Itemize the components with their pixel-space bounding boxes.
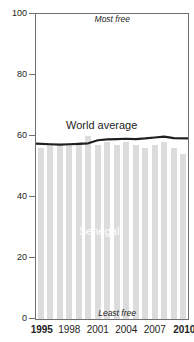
cropped-title-mark (73, 0, 79, 4)
y-axis-tick-label: 20 (17, 253, 27, 262)
x-axis-labels: 199519982001200420072010 (0, 324, 194, 340)
y-axis-tick (29, 135, 35, 136)
y-axis-tick (29, 74, 35, 75)
y-axis-tick-label: 80 (17, 70, 27, 79)
plot-inner (36, 14, 188, 319)
y-axis-tick-label: 60 (17, 131, 27, 140)
line-series-world-average (36, 14, 188, 319)
y-axis-tick (29, 13, 35, 14)
y-axis-tick-label: 0 (22, 314, 27, 323)
x-axis-tick-label: 1995 (31, 324, 53, 336)
annotation-least-free: Least free (98, 308, 136, 318)
y-axis-tick (29, 318, 35, 319)
chart-container: 020406080100 Most free Least free World … (0, 0, 194, 342)
series-label-senegal: Senegal (79, 225, 119, 237)
x-axis-tick-label: 2001 (87, 324, 109, 336)
x-axis-tick-label: 1998 (58, 324, 80, 336)
y-axis-tick (29, 257, 35, 258)
series-label-world-average: World average (66, 119, 137, 131)
x-axis-tick-label: 2010 (173, 324, 194, 336)
x-axis-tick-label: 2007 (144, 324, 166, 336)
y-axis-tick-label: 100 (12, 9, 27, 18)
annotation-most-free: Most free (95, 14, 130, 24)
y-axis-tick (29, 196, 35, 197)
plot-area (35, 13, 189, 320)
y-axis-tick-label: 40 (17, 192, 27, 201)
x-axis-tick-label: 2004 (115, 324, 137, 336)
